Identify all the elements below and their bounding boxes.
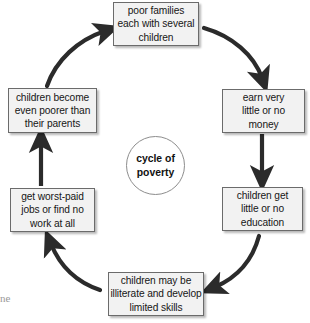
arrow-education-to-illiterate: [215, 236, 259, 287]
node-earn-very-little-label: earn very little or no money: [224, 91, 303, 131]
node-children-poorer-label: children become even poorer than their p…: [10, 91, 95, 131]
node-poor-families-label: poor families each with several children: [115, 4, 197, 44]
center-cycle-of-poverty-label: cycle of poverty: [136, 152, 175, 179]
node-children-little-education-label: children get little or no education: [224, 189, 301, 229]
arrow-poor-families-to-earn-little: [204, 28, 262, 78]
node-children-little-education[interactable]: children get little or no education: [222, 187, 303, 231]
cycle-of-poverty-diagram: poor families each with several children…: [0, 0, 310, 323]
node-poor-families[interactable]: poor families each with several children: [113, 2, 199, 46]
node-worst-paid-jobs-label: get worst-paid jobs or find no work at a…: [12, 190, 93, 230]
node-children-poorer[interactable]: children become even poorer than their p…: [8, 88, 97, 133]
node-earn-very-little[interactable]: earn very little or no money: [222, 89, 305, 133]
page-edge-text-fragment: ne: [0, 292, 10, 304]
node-illiterate-limited-skills[interactable]: children may be illiterate and develop l…: [108, 272, 204, 316]
arrow-children-poorer-to-poor-families: [47, 31, 105, 86]
arrow-illiterate-to-worst-paid: [51, 244, 100, 290]
node-worst-paid-jobs[interactable]: get worst-paid jobs or find no work at a…: [10, 188, 95, 232]
center-cycle-of-poverty: cycle of poverty: [126, 136, 185, 195]
node-illiterate-limited-skills-label: children may be illiterate and develop l…: [110, 274, 202, 314]
